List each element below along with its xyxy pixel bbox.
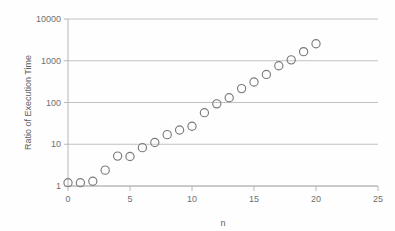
y-tick-label: 10 — [51, 139, 61, 149]
data-point — [176, 126, 184, 134]
y-tick-label: 1 — [56, 181, 61, 191]
data-point — [300, 48, 308, 56]
data-point — [126, 152, 134, 160]
x-tick-label: 20 — [311, 194, 321, 204]
x-tick-label: 10 — [187, 194, 197, 204]
data-point — [101, 166, 109, 174]
x-axis-title: n — [220, 218, 225, 228]
data-point — [262, 70, 270, 78]
y-axis-title: Ratio of Execution Time — [23, 55, 33, 150]
data-point — [213, 100, 221, 108]
data-series-ratio-of-execution-time — [64, 40, 320, 187]
data-point — [138, 144, 146, 152]
chart-container: 1101001000100000510152025nRatio of Execu… — [0, 0, 395, 231]
data-point — [200, 109, 208, 117]
x-tick-label: 0 — [65, 194, 70, 204]
y-tick-label: 1000 — [41, 56, 61, 66]
x-tick-label: 15 — [249, 194, 259, 204]
data-point — [312, 40, 320, 48]
x-tick-label: 25 — [373, 194, 383, 204]
data-point — [250, 78, 258, 86]
data-point — [238, 85, 246, 93]
x-tick-label: 5 — [127, 194, 132, 204]
data-point — [275, 62, 283, 70]
data-point — [225, 94, 233, 102]
scatter-plot: 1101001000100000510152025nRatio of Execu… — [0, 0, 395, 231]
data-point — [163, 131, 171, 139]
y-tick-label: 100 — [46, 98, 61, 108]
data-point — [151, 138, 159, 146]
data-point — [188, 122, 196, 130]
data-point — [287, 56, 295, 64]
y-tick-label: 10000 — [36, 14, 61, 24]
data-point — [114, 152, 122, 160]
data-point — [89, 177, 97, 185]
